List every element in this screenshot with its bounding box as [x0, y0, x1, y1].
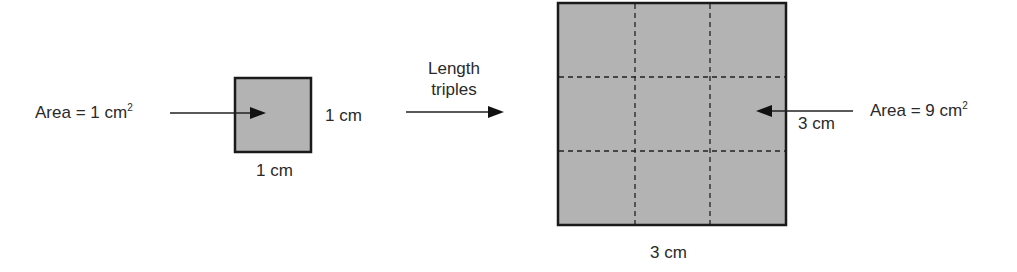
small-area-label: Area = 1 cm2: [35, 104, 133, 121]
large-bottom-label: 3 cm: [650, 244, 687, 261]
transform-label-line1: Length: [422, 60, 486, 77]
transform-label-line2: triples: [422, 81, 486, 98]
diagram-canvas: [0, 0, 1017, 272]
small-area-exponent: 2: [127, 102, 133, 113]
large-area-text: Area = 9 cm: [870, 101, 962, 120]
large-area-label: Area = 9 cm2: [870, 102, 968, 119]
large-side-label: 3 cm: [798, 115, 835, 132]
small-side-label: 1 cm: [325, 107, 362, 124]
transform-arrow-icon: [406, 106, 504, 118]
small-square: [235, 78, 311, 152]
small-bottom-label: 1 cm: [256, 162, 293, 179]
large-area-exponent: 2: [962, 100, 968, 111]
left-arrow-icon: [170, 107, 266, 119]
small-area-text: Area = 1 cm: [35, 103, 127, 122]
large-square: [558, 3, 786, 225]
